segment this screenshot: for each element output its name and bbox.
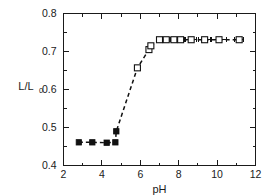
y-tick-label: 0.4 [42,159,57,171]
x-tick-label: 6 [137,168,143,180]
data-point-filled-square [76,140,81,145]
data-point-open-square [171,37,177,43]
data-point-open-square [202,37,208,43]
ph-swelling-scatter-plot: 246810120.40.50.60.70.8 pHL/L0 [0,0,275,196]
data-point-filled-square [104,140,109,145]
y-tick-label: 0.5 [42,121,57,133]
trend-lines [79,40,239,143]
data-point-open-square [236,37,242,43]
data-point-open-square [216,37,222,43]
x-tick-label: 2 [61,168,67,180]
y-axis-title: L/L [18,80,33,92]
connector-dashed-line [79,40,239,143]
data-markers [76,37,242,146]
y-tick-label: 0.7 [42,45,57,57]
x-tick-label: 4 [99,168,105,180]
data-point-open-square [148,43,154,49]
data-point-open-square [134,65,140,71]
axis-tick-labels: 246810120.40.50.60.70.8 [42,7,262,180]
y-tick-label: 0.6 [42,83,57,95]
data-point-filled-square [114,129,119,134]
x-axis-title: pH [152,183,166,195]
y-axis-title-subscript: 0 [39,86,43,95]
data-point-open-square [157,37,163,43]
data-point-filled-square [90,140,95,145]
data-point-open-square [163,37,169,43]
axis-titles: pHL/L0 [18,80,166,195]
x-tick-label: 8 [176,168,182,180]
data-point-open-square [188,37,194,43]
y-tick-label: 0.8 [42,7,57,19]
data-point-open-square [178,37,184,43]
data-point-filled-square [113,140,118,145]
x-tick-label: 12 [250,168,262,180]
chart-figure: 246810120.40.50.60.70.8 pHL/L0 [0,0,275,196]
x-tick-label: 10 [211,168,223,180]
